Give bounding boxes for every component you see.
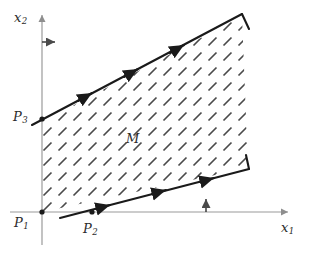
lower-boundary-arrow-1 (96, 205, 110, 209)
point-label-p2: P2 (83, 222, 98, 237)
lower-boundary-arrow-3 (200, 178, 214, 182)
upper-notch-segment (242, 14, 249, 29)
diagram-canvas: x2 x1 P1 P2 P3 M (0, 0, 313, 258)
point-p2-dot (89, 209, 94, 214)
x-axis-label: x1 (281, 221, 294, 236)
diagram-svg (0, 0, 313, 258)
region-label-m: M (126, 132, 139, 145)
point-label-p3: P3 (13, 110, 28, 125)
y-axis-label: x2 (14, 11, 27, 26)
point-p3-dot (39, 116, 44, 121)
point-label-p1: P1 (14, 216, 29, 231)
region-hatching (30, 5, 265, 220)
point-p1-dot (39, 209, 44, 214)
